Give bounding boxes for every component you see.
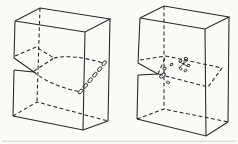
figure-canvas (0, 0, 238, 144)
figure (0, 0, 238, 144)
left-crystal-block (13, 8, 110, 130)
right-crystal-block (137, 6, 229, 136)
